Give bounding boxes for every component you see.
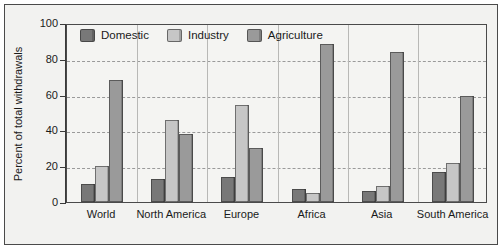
bar: [249, 148, 263, 202]
bar: [235, 105, 249, 202]
y-tick-label: 40: [32, 125, 58, 136]
bar: [390, 52, 404, 202]
group-separator: [207, 25, 208, 202]
group-separator: [278, 25, 279, 202]
legend-swatch-icon: [80, 29, 95, 42]
legend-label: Domestic: [101, 29, 149, 41]
bar: [320, 44, 334, 202]
legend-item: Domestic: [80, 29, 149, 42]
bar: [362, 191, 376, 202]
bar: [95, 166, 109, 202]
bar-shadow-edge: [191, 134, 193, 202]
bar-shadow-edge: [402, 52, 404, 202]
y-tick-label: 100: [32, 18, 58, 29]
group-separator: [348, 25, 349, 202]
bar: [376, 186, 390, 202]
x-category-label: Asia: [347, 208, 417, 220]
bar: [109, 80, 123, 202]
y-tick-mark: [60, 203, 66, 204]
bar: [460, 96, 474, 202]
bar: [81, 184, 95, 202]
group-separator: [418, 25, 419, 202]
bar: [151, 179, 165, 202]
x-category-label: South America: [417, 208, 487, 220]
chart-figure: 100806040200 Percent of total withdrawal…: [0, 0, 502, 249]
legend-swatch-edge: [259, 30, 261, 41]
y-axis-tick-labels: 100806040200: [28, 0, 58, 249]
x-category-label: Africa: [277, 208, 347, 220]
legend-item: Agriculture: [247, 29, 323, 42]
bar-shadow-edge: [472, 96, 474, 202]
gridline: [67, 61, 486, 62]
bar-shadow-edge: [121, 80, 123, 202]
x-category-label: North America: [136, 208, 206, 220]
legend-label: Agriculture: [268, 29, 323, 41]
y-tick-label: 20: [32, 161, 58, 172]
legend-swatch-icon: [167, 29, 182, 42]
bar: [165, 120, 179, 202]
legend-label: Industry: [188, 29, 229, 41]
chart-legend: DomesticIndustryAgriculture: [80, 27, 341, 43]
plot-area: [66, 24, 487, 203]
bar: [306, 193, 320, 202]
legend-swatch-edge: [92, 30, 94, 41]
bar-shadow-edge: [332, 44, 334, 202]
bar: [292, 189, 306, 202]
y-tick-label: 0: [32, 197, 58, 208]
bar: [446, 163, 460, 202]
bar: [179, 134, 193, 202]
gridline: [67, 132, 486, 133]
y-tick-label: 60: [32, 90, 58, 101]
legend-item: Industry: [167, 29, 229, 42]
gridline: [67, 97, 486, 98]
group-separator: [137, 25, 138, 202]
x-category-label: Europe: [206, 208, 276, 220]
x-category-label: World: [66, 208, 136, 220]
legend-swatch-icon: [247, 29, 262, 42]
y-axis-title: Percent of total withdrawals: [12, 24, 24, 204]
y-tick-label: 80: [32, 54, 58, 65]
legend-swatch-edge: [179, 30, 181, 41]
gridline: [67, 168, 486, 169]
bar: [221, 177, 235, 202]
bar-shadow-edge: [261, 148, 263, 202]
bar: [432, 172, 446, 202]
